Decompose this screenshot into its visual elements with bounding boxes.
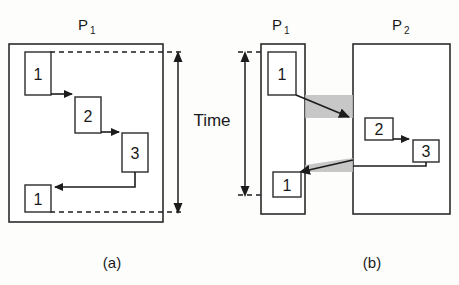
panel-a-step-label-2: 2 [84,108,93,125]
time-axis-left-arrowhead-up [174,51,183,62]
panel-b-step-3: 3 [413,140,439,162]
time-axis-label: Time [193,111,230,130]
panel-a-step-1: 1 [25,52,51,95]
panel-a-step-label-1: 1 [34,66,43,83]
panel-a: P 1 1 2 [9,16,185,271]
diagram-canvas: P 1 1 2 [0,0,459,285]
panel-b-message-band-request [305,95,353,118]
panel-b: P 1 P 2 1 [261,16,450,271]
time-axis-right [241,51,250,197]
panel-b-process-label-p2-name: P [392,16,402,33]
panel-b-process-label-p1-name: P [272,16,282,33]
panel-b-process-label-p2-subscript: 2 [404,25,410,36]
panel-a-caption: (a) [103,254,121,271]
panel-b-step-label-1-return: 1 [283,177,292,194]
panel-b-step-label-1: 1 [278,66,287,83]
process-label-p1-name: P [78,16,88,33]
panel-b-step-label-3: 3 [422,143,431,160]
panel-a-process-label-p1: P 1 [78,16,96,36]
time-axis-left [174,51,183,214]
panel-b-step-1: 1 [268,52,296,95]
panel-a-step-2: 2 [75,97,101,133]
process-label-p1-subscript: 1 [90,25,96,36]
panel-a-step-3: 3 [122,133,148,172]
panel-a-step-label-3: 3 [131,145,140,162]
panel-b-process-label-p1: P 1 [272,16,290,36]
panel-b-step-4: 1 [273,172,301,197]
panel-b-caption: (b) [363,254,381,271]
panel-a-step-label-1-return: 1 [34,191,43,208]
panel-a-step-4: 1 [25,185,51,212]
panel-b-step-2: 2 [365,118,393,140]
panel-b-process-label-p2: P 2 [392,16,410,36]
figure-root: P 1 1 2 [0,0,459,285]
panel-b-step-label-2: 2 [375,121,384,138]
time-axis-left-arrowhead-down [174,203,183,214]
panel-b-process-label-p1-subscript: 1 [284,25,290,36]
